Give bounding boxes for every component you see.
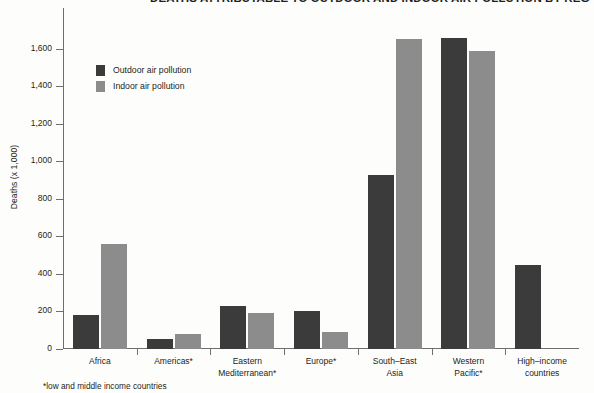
y-tick-mark — [56, 199, 63, 200]
y-tick-mark — [56, 124, 63, 125]
x-tick — [137, 349, 138, 355]
bar-outdoor — [220, 306, 246, 349]
y-tick-0: 0 — [0, 349, 63, 350]
y-tick-1000: 1,000 — [0, 161, 63, 162]
bar-indoor — [248, 313, 274, 349]
x-axis-label: Europe* — [284, 356, 358, 368]
chart-footnote: *low and middle income countries — [43, 381, 167, 391]
x-axis-label: High–incomecountries — [505, 356, 579, 379]
y-tick-label: 400 — [38, 268, 52, 278]
bar-group — [220, 30, 274, 349]
legend-item-outdoor: Outdoor air pollution — [96, 62, 191, 78]
y-tick-400: 400 — [0, 274, 63, 275]
x-axis-label-line: Western — [432, 356, 506, 368]
y-tick-mark — [56, 236, 63, 237]
x-axis-label: Africa — [63, 356, 137, 368]
y-tick-mark — [56, 161, 63, 162]
bar-indoor — [396, 39, 422, 349]
y-tick-label: 200 — [38, 305, 52, 315]
y-tick-1600: 1,600 — [0, 49, 63, 50]
bar-group — [515, 30, 569, 349]
bar-indoor — [469, 51, 495, 349]
x-axis-label-line: Americas* — [137, 356, 211, 368]
y-axis-title: Deaths (x 1,000) — [9, 117, 19, 237]
y-tick-200: 200 — [0, 311, 63, 312]
bar-indoor — [175, 334, 201, 349]
x-axis-label-line: Mediterranean* — [210, 368, 284, 380]
y-tick-label: 1,400 — [31, 80, 52, 90]
x-axis-label: EasternMediterranean* — [210, 356, 284, 379]
chart-legend: Outdoor air pollution Indoor air polluti… — [96, 62, 191, 94]
bar-outdoor — [294, 311, 320, 349]
chart-title: DEATHS ATTRIBUTABLE TO OUTDOOR AND INDOO… — [150, 0, 590, 4]
bar-group — [368, 30, 422, 349]
y-tick-600: 600 — [0, 236, 63, 237]
x-axis-label-line: Pacific* — [432, 368, 506, 380]
x-axis-label-line: Eastern — [210, 356, 284, 368]
y-tick-label: 1,000 — [31, 155, 52, 165]
legend-swatch-indoor-icon — [96, 81, 105, 92]
y-tick-label: 1,200 — [31, 118, 52, 128]
y-tick-mark — [56, 349, 63, 350]
x-tick — [432, 349, 433, 355]
x-axis-label-line: Africa — [63, 356, 137, 368]
bar-indoor — [322, 332, 348, 349]
x-tick — [210, 349, 211, 355]
bar-outdoor — [441, 38, 467, 349]
bar-indoor — [101, 244, 127, 349]
bar-outdoor — [368, 175, 394, 350]
x-tick — [358, 349, 359, 355]
x-axis-label-line: High–income — [505, 356, 579, 368]
legend-swatch-outdoor-icon — [96, 65, 105, 76]
x-axis-label: WesternPacific* — [432, 356, 506, 379]
legend-label-outdoor: Outdoor air pollution — [113, 65, 191, 75]
bar-outdoor — [147, 339, 173, 349]
y-tick-800: 800 — [0, 199, 63, 200]
bar-group — [294, 30, 348, 349]
y-tick-mark — [56, 86, 63, 87]
y-tick-mark — [56, 311, 63, 312]
y-tick-1400: 1,400 — [0, 86, 63, 87]
y-tick-mark — [56, 274, 63, 275]
x-tick — [284, 349, 285, 355]
x-axis-label: Americas* — [137, 356, 211, 368]
legend-label-indoor: Indoor air pollution — [113, 81, 184, 91]
y-tick-mark — [56, 49, 63, 50]
x-axis-label-line: South–East — [358, 356, 432, 368]
y-tick-label: 1,600 — [31, 43, 52, 53]
x-axis-label: South–EastAsia — [358, 356, 432, 379]
y-tick-label: 0 — [47, 343, 52, 353]
bar-outdoor — [73, 315, 99, 349]
x-axis-label-line: Asia — [358, 368, 432, 380]
x-axis-label-line: countries — [505, 368, 579, 380]
chart-page: DEATHS ATTRIBUTABLE TO OUTDOOR AND INDOO… — [0, 0, 594, 393]
y-tick-1200: 1,200 — [0, 124, 63, 125]
legend-item-indoor: Indoor air pollution — [96, 78, 191, 94]
y-tick-label: 600 — [38, 230, 52, 240]
x-axis-label-line: Europe* — [284, 356, 358, 368]
bar-outdoor — [515, 265, 541, 349]
y-tick-label: 800 — [38, 193, 52, 203]
x-tick — [505, 349, 506, 355]
bar-group — [441, 30, 495, 349]
